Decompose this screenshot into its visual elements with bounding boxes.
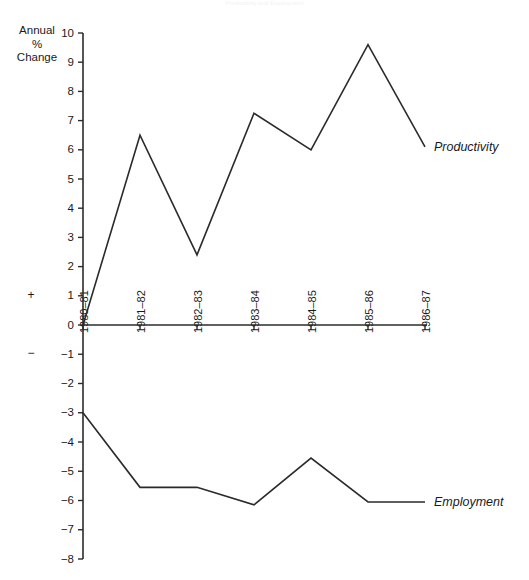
- y-tick-label: 3: [68, 231, 74, 243]
- chart-root: Productivity and Employment Annual % Cha…: [0, 0, 529, 580]
- y-tick-label: −7: [61, 523, 74, 535]
- series-label-productivity: Productivity: [434, 140, 499, 154]
- figure-title: Productivity and Employment: [0, 0, 529, 7]
- y-tick-label: −5: [61, 465, 74, 477]
- y-tick-label: −4: [61, 436, 75, 448]
- y-tick-label: 5: [68, 173, 74, 185]
- y-tick-label: 6: [68, 143, 74, 155]
- y-tick-label: 1: [68, 289, 74, 301]
- y-tick-label: 0: [68, 319, 74, 331]
- x-tick-label: 1982–83: [192, 290, 204, 333]
- y-tick-label: 9: [68, 56, 74, 68]
- series-line-productivity: [83, 45, 425, 325]
- x-tick-label: 1985–86: [363, 290, 375, 333]
- series-line-employment: [83, 413, 425, 505]
- x-axis-ticks: 1980–811981–821982–831983–841984–851985–…: [78, 290, 432, 333]
- x-tick-label: 1981–82: [135, 290, 147, 333]
- data-series-group: [83, 45, 425, 505]
- y-tick-label: −6: [61, 494, 74, 506]
- x-tick-label: 1986–87: [420, 290, 432, 333]
- sign-markers: +−: [27, 288, 34, 360]
- y-tick-label: −2: [61, 377, 74, 389]
- y-tick-label: −8: [61, 553, 74, 565]
- minus-sign-marker: −: [27, 346, 34, 360]
- x-tick-label: 1983–84: [249, 290, 261, 333]
- series-label-employment: Employment: [434, 495, 504, 509]
- y-axis-caption: Annual % Change: [6, 24, 68, 65]
- y-tick-label: −3: [61, 406, 74, 418]
- series-labels-group: ProductivityEmployment: [434, 140, 504, 509]
- y-tick-label: 4: [68, 202, 75, 214]
- y-tick-label: 7: [68, 114, 74, 126]
- plus-sign-marker: +: [27, 288, 34, 302]
- y-tick-label: 2: [68, 260, 74, 272]
- line-chart-plot: 109876543210−1−2−3−4−5−6−7−8 1980–811981…: [0, 0, 529, 580]
- y-tick-label: 8: [68, 85, 74, 97]
- x-tick-label: 1984–85: [306, 290, 318, 333]
- y-tick-label: −1: [61, 348, 74, 360]
